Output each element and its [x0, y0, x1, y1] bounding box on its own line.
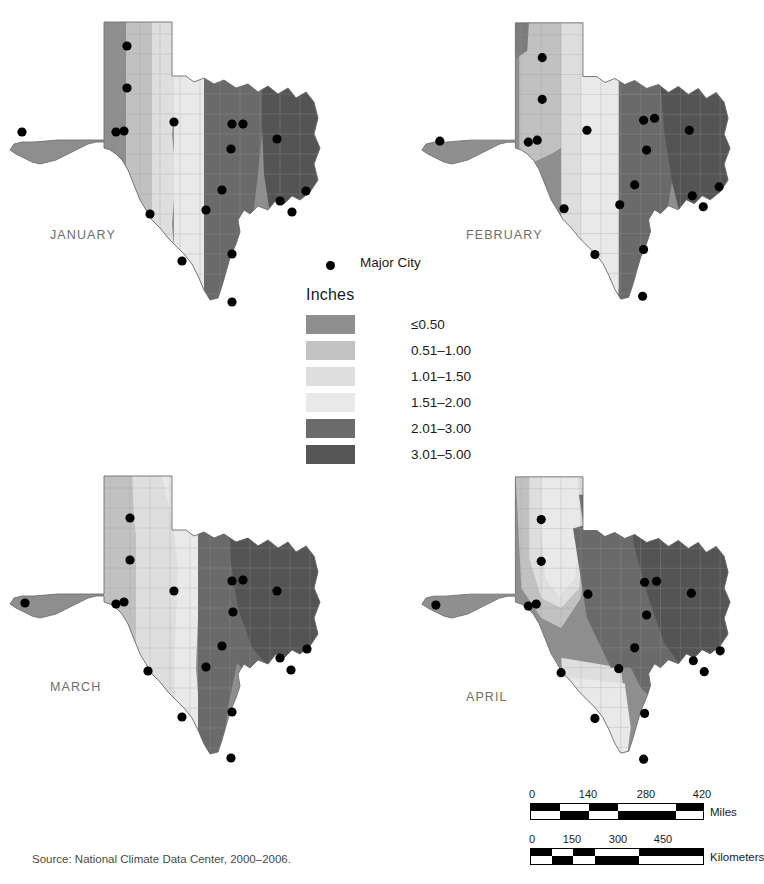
map-panel-january[interactable] — [0, 14, 336, 314]
legend-row: 3.01–5.00 — [306, 441, 486, 467]
city-dot — [537, 557, 546, 566]
choropleth-bands-april — [412, 469, 746, 767]
city-dot — [227, 576, 236, 585]
city-dot — [111, 599, 120, 608]
city-dot — [582, 126, 591, 135]
legend-swatch-4 — [306, 419, 355, 438]
city-dot — [615, 200, 624, 209]
city-dot — [227, 249, 236, 258]
legend-row: 0.51–1.00 — [306, 337, 486, 363]
city-dot — [538, 53, 547, 62]
miles-tick-2: 280 — [637, 788, 655, 800]
city-dot — [111, 127, 120, 136]
city-dot — [538, 95, 547, 104]
month-label-february: FEBRUARY — [466, 228, 543, 242]
miles-tick-0: 0 — [529, 788, 535, 800]
city-dot — [630, 180, 639, 189]
legend-swatch-3 — [306, 393, 355, 412]
city-dot — [688, 191, 697, 200]
legend-swatch-0 — [306, 315, 355, 334]
legend-label-4: 2.01–3.00 — [411, 421, 471, 436]
miles-tick-1: 140 — [579, 788, 597, 800]
kilometers-unit-label: Kilometers — [710, 851, 764, 863]
texas-map-april — [412, 468, 746, 768]
kilometers-bar-row: Kilometers — [530, 848, 764, 865]
city-dot — [700, 667, 709, 676]
city-dot — [639, 755, 648, 764]
city-dot — [715, 182, 724, 191]
miles-tick-3: 420 — [693, 788, 711, 800]
map-legend: Major City Inches ≤0.50 0.51–1.00 1.01–1… — [306, 255, 486, 467]
city-dot — [217, 641, 226, 650]
choropleth-bands-january — [0, 14, 336, 314]
source-note: Source: National Climate Data Center, 20… — [32, 853, 291, 865]
city-dot — [560, 204, 569, 213]
texas-map-march — [0, 468, 336, 768]
km-tick-0: 0 — [529, 833, 535, 845]
city-dot — [125, 555, 134, 564]
city-dot — [227, 707, 236, 716]
city-dot — [533, 136, 542, 145]
major-city-dot-icon — [326, 261, 335, 270]
miles-bar-graphic — [530, 803, 704, 820]
km-tick-1: 150 — [563, 833, 581, 845]
city-dot — [435, 137, 444, 146]
city-dot — [642, 146, 651, 155]
city-dot — [583, 590, 592, 599]
city-dot — [287, 207, 296, 216]
legend-row: 2.01–3.00 — [306, 415, 486, 441]
month-label-january: JANUARY — [50, 228, 116, 242]
city-dot — [614, 664, 623, 673]
legend-row: 1.51–2.00 — [306, 389, 486, 415]
city-dot — [685, 126, 694, 135]
city-dot — [275, 196, 284, 205]
city-dot — [125, 513, 134, 522]
city-dot — [227, 297, 236, 306]
city-dot — [177, 256, 186, 265]
city-dot — [590, 714, 599, 723]
legend-major-city-entry: Major City — [306, 255, 486, 277]
city-dot — [226, 144, 235, 153]
month-label-march: MARCH — [50, 680, 101, 694]
city-dot — [532, 600, 541, 609]
city-dot — [119, 126, 128, 135]
legend-swatch-2 — [306, 367, 355, 386]
city-dot — [143, 666, 152, 675]
miles-unit-label: Miles — [710, 806, 737, 818]
miles-bar-row: Miles — [530, 803, 764, 820]
choropleth-bands-march — [0, 468, 336, 768]
city-dot — [226, 753, 235, 762]
city-dot — [169, 586, 178, 595]
city-dot — [20, 598, 29, 607]
city-dot — [238, 119, 247, 128]
map-panel-april[interactable] — [412, 468, 746, 768]
legend-swatch-1 — [306, 341, 355, 360]
city-dot — [650, 114, 659, 123]
city-dot — [590, 250, 599, 259]
city-dot — [302, 644, 311, 653]
city-dot — [177, 712, 186, 721]
city-dot — [431, 601, 440, 610]
scale-bar-miles: 0 140 280 420 — [530, 788, 764, 820]
kilometers-tick-labels: 0 150 300 450 — [530, 833, 764, 848]
city-dot — [716, 646, 725, 655]
month-label-april: APRIL — [466, 690, 508, 704]
city-dot — [301, 186, 310, 195]
city-dot — [122, 83, 131, 92]
scale-bar-kilometers: 0 150 300 450 Kilometers — [530, 833, 764, 865]
map-panel-march[interactable] — [0, 468, 336, 768]
city-dot — [227, 119, 236, 128]
legend-row: ≤0.50 — [306, 311, 486, 337]
legend-label-2: 1.01–1.50 — [411, 369, 471, 384]
city-dot — [699, 202, 708, 211]
legend-title: Inches — [306, 286, 486, 304]
km-tick-2: 300 — [609, 833, 627, 845]
city-dot — [640, 709, 649, 718]
city-dot — [630, 643, 639, 652]
city-dot — [689, 656, 698, 665]
city-dot — [272, 134, 281, 143]
legend-swatch-5 — [306, 445, 355, 464]
city-dot — [228, 607, 237, 616]
legend-row: 1.01–1.50 — [306, 363, 486, 389]
